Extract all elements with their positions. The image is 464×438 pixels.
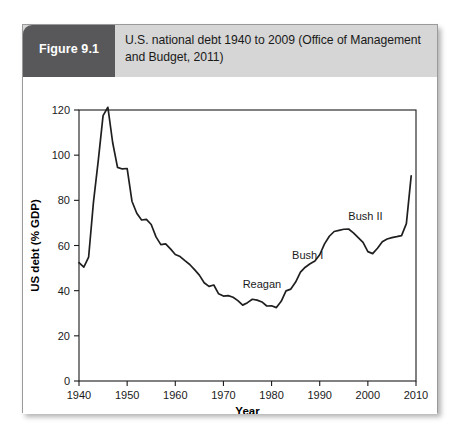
x-tick-label: 1980 xyxy=(259,389,283,401)
y-tick-label: 100 xyxy=(52,149,70,161)
chart-annotations: ReaganBush IBush II xyxy=(243,210,383,291)
x-tick-label: 1990 xyxy=(307,389,331,401)
y-axis-title: US debt (% GDP) xyxy=(29,199,41,292)
x-tick-label: 1960 xyxy=(163,389,187,401)
y-axis-ticks: 020406080100120 xyxy=(52,104,79,387)
y-tick-label: 40 xyxy=(58,285,70,297)
x-tick-label: 2010 xyxy=(404,389,428,401)
x-axis-title: Year xyxy=(235,405,260,414)
figure-caption: U.S. national debt 1940 to 2009 (Office … xyxy=(125,32,430,65)
y-tick-label: 120 xyxy=(52,104,70,116)
x-tick-label: 2000 xyxy=(356,389,380,401)
annotation-bush-ii: Bush II xyxy=(348,210,382,222)
x-tick-label: 1950 xyxy=(115,389,139,401)
y-tick-label: 0 xyxy=(64,375,70,387)
figure-number-badge: Figure 9.1 xyxy=(23,25,115,77)
annotation-bush-i: Bush I xyxy=(292,249,323,261)
x-axis-ticks: 19401950196019701980199020002010 xyxy=(67,381,428,401)
chart-plot-area: 020406080100120 194019501960197019801990… xyxy=(23,77,437,414)
y-tick-label: 80 xyxy=(58,194,70,206)
y-tick-label: 20 xyxy=(58,330,70,342)
y-tick-label: 60 xyxy=(58,240,70,252)
figure-number-label: Figure 9.1 xyxy=(23,42,115,56)
debt-line-chart: 020406080100120 194019501960197019801990… xyxy=(23,77,439,414)
x-tick-label: 1940 xyxy=(67,389,91,401)
figure-header: Figure 9.1 U.S. national debt 1940 to 20… xyxy=(23,25,437,77)
figure-card: Figure 9.1 U.S. national debt 1940 to 20… xyxy=(22,24,438,413)
annotation-reagan: Reagan xyxy=(243,278,282,290)
x-tick-label: 1970 xyxy=(211,389,235,401)
